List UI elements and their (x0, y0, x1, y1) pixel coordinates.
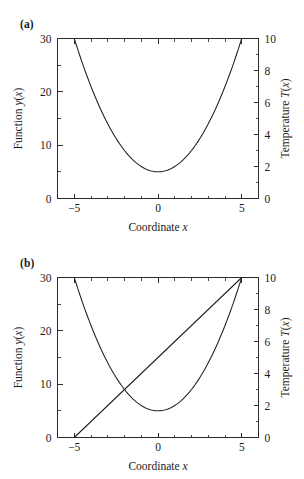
y-tick-label-right: 2 (265, 161, 271, 173)
y-tick-label-left: 30 (40, 272, 52, 284)
x-tick-label: 5 (239, 441, 245, 453)
y-axis-title-left: Function y(x) (12, 88, 25, 150)
x-tick-label: 5 (239, 202, 245, 214)
y-tick-label-left: 0 (46, 193, 52, 205)
plot-b: −50501020300246810Coordinate xFunction y… (0, 249, 304, 479)
x-axis-title: Coordinate x (128, 460, 188, 472)
y-tick-label-right: 4 (265, 129, 271, 141)
y-axis-title-right: Temperature T(x) (279, 78, 292, 158)
y-tick-label-right: 10 (265, 33, 277, 45)
x-axis-title: Coordinate x (128, 221, 188, 233)
figure-panel-a: (a) −50501020300246810Coordinate xFuncti… (0, 10, 304, 242)
x-tick-label: −5 (68, 441, 80, 453)
y-tick-label-right: 2 (265, 400, 271, 412)
y-tick-label-right: 6 (265, 336, 271, 348)
curve-parabola (74, 278, 242, 411)
y-tick-label-right: 10 (265, 272, 277, 284)
y-tick-label-right: 0 (265, 432, 271, 444)
page-edge-artifact: · · (196, 0, 296, 6)
y-tick-label-right: 6 (265, 97, 271, 109)
y-axis-title-right: Temperature T(x) (279, 317, 292, 397)
y-tick-label-right: 0 (265, 193, 271, 205)
y-tick-label-left: 0 (46, 432, 52, 444)
y-tick-label-left: 30 (40, 33, 52, 45)
y-tick-label-right: 8 (265, 65, 271, 77)
plot-a: −50501020300246810Coordinate xFunction y… (0, 10, 304, 242)
x-tick-label: 0 (155, 202, 161, 214)
curve-parabola (74, 39, 242, 172)
y-axis-title-left: Function y(x) (12, 327, 25, 389)
y-tick-label-left: 10 (40, 378, 52, 390)
x-tick-label: −5 (68, 202, 80, 214)
y-tick-label-right: 8 (265, 304, 271, 316)
x-tick-label: 0 (155, 441, 161, 453)
y-tick-label-left: 20 (40, 325, 52, 337)
figure-panel-b: (b) −50501020300246810Coordinate xFuncti… (0, 249, 304, 479)
y-tick-label-left: 20 (40, 86, 52, 98)
curve-straight-line (74, 278, 242, 438)
y-tick-label-left: 10 (40, 139, 52, 151)
y-tick-label-right: 4 (265, 368, 271, 380)
